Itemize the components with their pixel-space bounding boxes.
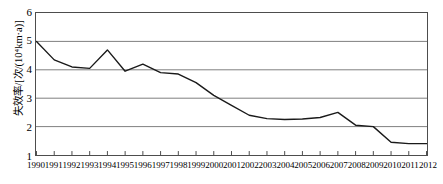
x-axis-tick-label: 1991 <box>45 159 62 171</box>
y-axis-tick-labels: 654321 <box>0 0 32 184</box>
x-axis-tick-label: 1997 <box>152 159 169 171</box>
x-axis-tick-label: 1990 <box>27 159 44 171</box>
x-axis-tick-label: 2000 <box>205 159 222 171</box>
x-axis-tick-label: 1994 <box>98 159 115 171</box>
x-axis-tick-label: 1998 <box>170 159 187 171</box>
x-axis-tick-labels: 1990199119921993199419951996199719981999… <box>35 159 428 173</box>
x-axis-tick-label: 2005 <box>294 159 311 171</box>
x-axis-tick-label: 1992 <box>63 159 80 171</box>
x-axis-tick-label: 2001 <box>223 159 240 171</box>
chart-figure: 失效率/[次/(10⁴km·a)] 654321 199019911992199… <box>0 0 443 184</box>
y-axis-tick-label: 4 <box>6 64 32 75</box>
x-axis-tick-label: 1999 <box>187 159 204 171</box>
x-axis-tick-label: 1996 <box>134 159 151 171</box>
x-axis-tick-label: 2012 <box>419 159 436 171</box>
x-axis-tick-label: 2002 <box>241 159 258 171</box>
y-axis-tick-label: 5 <box>6 35 32 46</box>
x-axis-tick-label: 1995 <box>116 159 133 171</box>
y-axis-tick-label: 6 <box>6 7 32 18</box>
x-axis-tick-label: 1993 <box>80 159 97 171</box>
plot-area <box>35 12 428 156</box>
x-axis-tick-label: 2011 <box>401 159 418 171</box>
x-axis-tick-label: 2007 <box>330 159 347 171</box>
series-line <box>36 41 426 143</box>
y-axis-tick-label: 2 <box>6 122 32 133</box>
x-axis-tick-label: 2010 <box>383 159 400 171</box>
data-series-line <box>36 13 427 155</box>
x-axis-tick-label: 2004 <box>276 159 293 171</box>
x-axis-tick-label: 2008 <box>348 159 365 171</box>
x-axis-tick-label: 2003 <box>259 159 276 171</box>
x-axis-tick-label: 2006 <box>312 159 329 171</box>
y-axis-tick-label: 3 <box>6 93 32 104</box>
x-axis-tick-label: 2009 <box>366 159 383 171</box>
